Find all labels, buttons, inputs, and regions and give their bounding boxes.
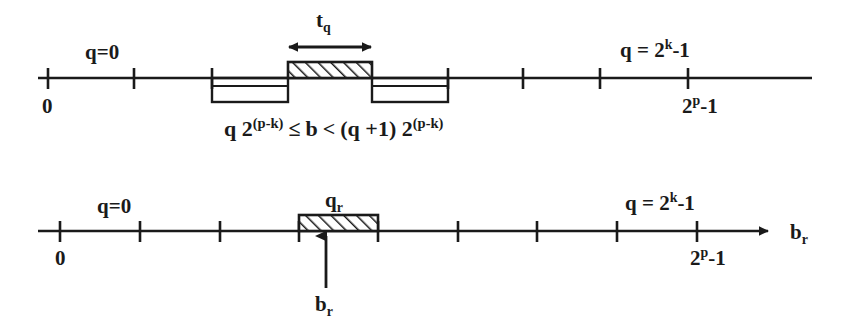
bottom-axis-left-label-above: q=0 [97, 196, 131, 217]
top-right-above-prefix: q = 2 [620, 38, 665, 62]
formula-term1-base: q 2 [224, 116, 253, 141]
top-right-below-suffix: -1 [700, 94, 718, 118]
formula-term2-base: (q +1) 2 [340, 116, 412, 141]
bottom-axis-group [38, 215, 768, 288]
br-axis-name-base: b [790, 220, 802, 244]
br-pointer-label-base: b [315, 292, 327, 316]
br-pointer-label-subscript: r [327, 304, 333, 319]
top-right-below-prefix: 2 [682, 94, 693, 118]
formula-relation2: < [318, 116, 341, 141]
formula-term2-exponent: (p-k) [413, 115, 444, 131]
bottom-right-below-suffix: -1 [708, 246, 726, 270]
formula-relation1: ≤ [283, 116, 305, 141]
formula-variable: b [305, 116, 317, 141]
top-axis-left-label-above: q=0 [85, 42, 119, 63]
bottom-axis-right-label-above: q = 2k-1 [625, 193, 695, 214]
bottom-right-above-prefix: q = 2 [625, 191, 670, 215]
qr-label-base: q [325, 188, 337, 212]
formula-term1-exponent: (p-k) [253, 115, 284, 131]
diagram-linework [0, 0, 842, 329]
tq-label-base: t [316, 8, 323, 32]
bottom-axis-left-label-below: 0 [55, 248, 66, 269]
quantization-interval-formula: q 2(p-k)≤b<(q +1) 2(p-k) [224, 118, 443, 140]
qr-label-subscript: r [337, 200, 343, 215]
br-axis-name-label: br [790, 222, 808, 243]
bottom-right-above-suffix: -1 [677, 191, 695, 215]
bottom-axis-right-label-below: 2p-1 [690, 248, 726, 269]
br-pointer-label: br [315, 294, 333, 315]
figure-canvas: q=0 0 q = 2k-1 2p-1 tq q 2(p-k)≤b<(q +1)… [0, 0, 842, 329]
br-axis-name-subscript: r [802, 232, 808, 247]
tq-label-subscript: q [323, 20, 331, 35]
top-axis-right-label-above: q = 2k-1 [620, 40, 690, 61]
qr-label: qr [325, 190, 343, 211]
bottom-right-below-prefix: 2 [690, 246, 701, 270]
top-right-above-suffix: -1 [672, 38, 690, 62]
top-axis-left-label-below: 0 [42, 96, 53, 117]
top-axis-right-label-below: 2p-1 [682, 96, 718, 117]
tq-label: tq [316, 10, 331, 31]
